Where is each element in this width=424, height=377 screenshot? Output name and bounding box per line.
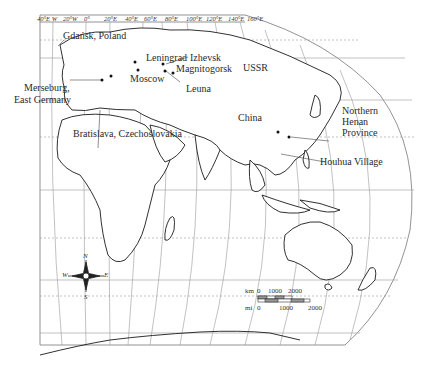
compass-w: W [62,271,68,279]
label-henan-1: Northern [342,105,378,116]
compass-n: N [83,252,88,260]
new-zealand [358,268,376,291]
tick-40w: 40°E W [37,15,57,22]
label-china: China [238,112,262,123]
scale-mi-2000: 2000 [308,304,322,312]
marker-houhua [288,136,291,139]
marker-leuna [110,75,113,78]
scale-km-unit: km [245,287,254,295]
label-merseburg-2: East Germany [14,94,71,105]
compass-icon [68,260,104,292]
scale-km-1000: 1000 [268,287,282,295]
compass-e: E [104,271,108,279]
indonesia [262,195,310,213]
marker-henan [277,131,280,134]
label-leuna: Leuna [186,83,211,94]
australia [284,222,353,280]
tick-60e: 60°E [144,15,157,22]
tick-160e: 160°E [247,15,263,22]
scale-bar [258,296,310,302]
label-merseburg-1: Merseburg, [24,82,70,93]
scale-mi-0: 0 [257,304,261,312]
label-bratislava: Bratislava, Czechoslovakia [73,128,182,139]
label-henan-2: Henan [342,116,368,127]
tick-80e: 80°E [165,15,178,22]
marker-moscow [137,69,140,72]
label-ussr: USSR [243,62,268,73]
tick-120e: 120°E [206,15,222,22]
marker-leningrad [134,61,137,64]
label-houhua: Houhua Village [320,156,383,167]
tick-140e: 140°E [228,15,244,22]
label-izhevsk: Izhevsk [190,52,221,63]
tick-20e: 20°E [104,15,117,22]
label-leningrad: Leningrad [146,52,187,63]
label-magnitogorsk: Magnitogorsk [176,63,232,74]
marker-merseburg [101,79,104,82]
label-gdansk: Gdańsk, Poland [63,30,126,41]
compass-s: S [84,293,88,301]
tick-40e: 40°E [125,15,138,22]
tick-100e: 100°E [186,15,202,22]
label-moscow: Moscow [130,73,164,84]
continents [40,28,376,355]
tick-0: 0° [84,15,90,22]
marker-magnitogorsk-2 [172,72,175,75]
scale-mi-unit: mi [245,304,252,312]
tick-20w: 20°W [63,15,78,22]
scale-mi-1000: 1000 [279,304,293,312]
scale-km-0: 0 [257,287,261,295]
label-henan-3: Province [342,127,378,138]
madagascar [165,217,175,241]
scale-km-2000: 2000 [288,287,302,295]
antarctica [40,331,300,355]
